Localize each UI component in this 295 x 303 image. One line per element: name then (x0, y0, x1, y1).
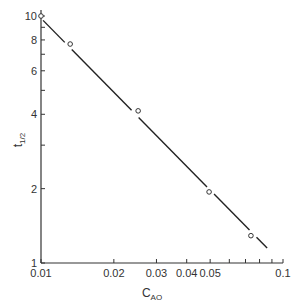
y-tick-label: 10 (25, 10, 37, 22)
y-axis-label: t1/2 (11, 132, 27, 147)
fit-line-segment (72, 50, 132, 111)
y-tick-label: 2 (31, 183, 37, 195)
x-tick-label: 0.04 (176, 267, 197, 279)
data-point-marker (136, 109, 141, 114)
fit-line-segment (214, 194, 249, 230)
fit-line-segment (43, 20, 65, 42)
x-tick-label: 0.05 (199, 267, 220, 279)
y-tick-label: 4 (31, 108, 37, 120)
data-point-marker (68, 42, 73, 47)
axes (41, 10, 283, 263)
x-tick-label: 0.03 (146, 267, 167, 279)
x-tick-label: 0.02 (103, 267, 124, 279)
fit-line (43, 20, 267, 248)
data-point-marker (39, 14, 44, 19)
fit-line-segment (257, 237, 268, 248)
x-tick-label: 0.1 (275, 267, 290, 279)
y-tick-label: 6 (31, 65, 37, 77)
tick-labels: 0.010.020.030.040.050.11246810 (25, 10, 291, 279)
data-point-marker (207, 190, 212, 195)
fit-line-segment (139, 117, 207, 187)
x-axis-label: CAO (142, 286, 162, 302)
data-point-marker (249, 233, 254, 238)
y-tick-label: 1 (31, 257, 37, 269)
ticks (41, 16, 283, 263)
log-log-chart: 0.010.020.030.040.050.11246810 t1/2 CAO (0, 0, 295, 303)
y-tick-label: 8 (31, 34, 37, 46)
